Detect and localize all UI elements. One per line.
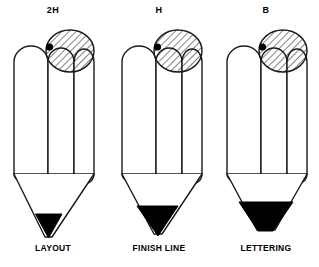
pencil-grade-diagram: 2H (0, 0, 319, 267)
pencil-graphite-tip (239, 202, 293, 231)
pencil-illustration-b: B LETTERING (213, 0, 319, 267)
hatched-circle-eraser-icon (46, 30, 94, 72)
pencil-grade-label: B (213, 4, 319, 16)
pencil-grade-label: H (106, 4, 212, 16)
pencil-barrel-left (14, 46, 48, 174)
hatched-circle-eraser-icon (259, 30, 307, 72)
pencil-illustration-h: H FINISH LINE (106, 0, 212, 267)
pencil-barrel-left (227, 46, 261, 174)
pencil-illustration-2h: 2H (0, 0, 106, 267)
pencil-graphite-tip (137, 206, 178, 236)
hatched-circle-eraser-icon (154, 30, 202, 72)
pencil-drawing (213, 22, 319, 240)
pencil-use-label: LAYOUT (0, 243, 106, 254)
pencil-barrel-left (122, 46, 156, 174)
pencil-drawing (106, 22, 212, 240)
pencil-drawing (0, 22, 106, 240)
pencil-use-label: FINISH LINE (106, 243, 212, 254)
pencil-grade-label: 2H (0, 4, 106, 16)
pencil-use-label: LETTERING (213, 243, 319, 254)
